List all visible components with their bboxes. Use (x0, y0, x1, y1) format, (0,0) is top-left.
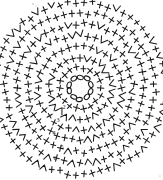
round-number-label: 2 (62, 103, 65, 110)
scan-speck (36, 6, 37, 7)
crochet-pattern-chart: 23456 (0, 0, 163, 180)
round-number-label: 5 (60, 143, 63, 150)
round-number-label: 3 (56, 116, 59, 123)
round-number-label: 6 (53, 154, 56, 161)
round-number-label: 4 (52, 129, 55, 136)
scan-speck (32, 3, 33, 4)
scan-speck (159, 175, 160, 176)
pattern-diagram-canvas: 23456 (0, 0, 163, 180)
